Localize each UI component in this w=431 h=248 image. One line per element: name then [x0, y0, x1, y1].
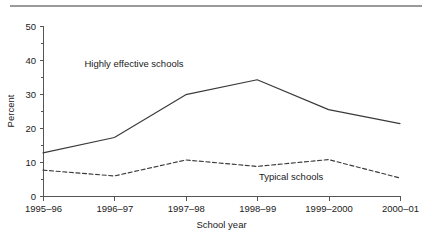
y-axis-ticks: [40, 27, 44, 197]
series-line-typical-schools: [43, 160, 400, 178]
y-axis-title: Percent: [5, 94, 16, 127]
x-tick-label: 2000–01: [382, 203, 419, 214]
series-lines: [43, 80, 400, 178]
x-tick-label: 1995–96: [25, 203, 62, 214]
x-axis-ticks: [44, 197, 401, 201]
x-tick-label: 1999–2000: [305, 203, 353, 214]
x-axis-title: School year: [196, 219, 246, 230]
y-tick-label: 20: [25, 123, 36, 134]
x-tick-label: 1996–97: [96, 203, 133, 214]
y-tick-label: 10: [25, 157, 36, 168]
y-tick-label: 30: [25, 89, 36, 100]
x-tick-label: 1997–98: [168, 203, 205, 214]
y-tick-label: 40: [25, 55, 36, 66]
annotation-typical-schools: Typical schools: [259, 171, 324, 182]
y-tick-label: 50: [25, 21, 36, 32]
series-line-highly-effective-schools: [43, 80, 400, 153]
y-axis-tick-labels: 01020304050: [25, 21, 36, 202]
y-tick-label: 0: [31, 191, 36, 202]
x-axis-tick-labels: 1995–961996–971997–981998–991999–2000200…: [25, 203, 419, 214]
x-tick-label: 1998–99: [239, 203, 276, 214]
line-chart-plot: 01020304050 1995–961996–971997–981998–99…: [0, 0, 431, 248]
annotation-highly-effective-schools: Highly effective schools: [84, 58, 183, 69]
chart-figure: 01020304050 1995–961996–971997–981998–99…: [0, 0, 431, 248]
